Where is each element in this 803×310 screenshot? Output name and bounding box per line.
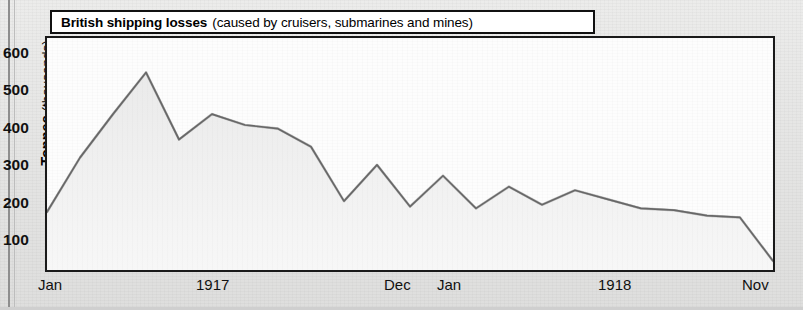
y-tick-600: 600	[3, 44, 43, 62]
x-tick-year-1918: 1918	[598, 276, 631, 293]
chart-figure: British shipping losses (caused by cruis…	[0, 0, 803, 310]
y-tick-200: 200	[3, 194, 43, 212]
plot-area	[45, 36, 775, 272]
y-tick-300: 300	[3, 156, 43, 174]
y-tick-400: 400	[3, 119, 43, 137]
chart-title-box: British shipping losses (caused by cruis…	[50, 10, 595, 34]
y-tick-500: 500	[3, 81, 43, 99]
y-tick-100: 100	[3, 231, 43, 249]
x-tick-year-1917: 1917	[196, 276, 229, 293]
series-svg	[47, 38, 773, 270]
x-tick-dec-1917: Dec	[384, 276, 411, 293]
x-tick-jan-1917: Jan	[38, 276, 62, 293]
x-tick-jan-1918: Jan	[437, 276, 461, 293]
series-area	[47, 72, 773, 270]
chart-title-main: British shipping losses	[61, 15, 207, 30]
chart-title-subtitle: (caused by cruisers, submarines and mine…	[212, 15, 473, 30]
x-tick-nov-1918: Nov	[742, 276, 769, 293]
